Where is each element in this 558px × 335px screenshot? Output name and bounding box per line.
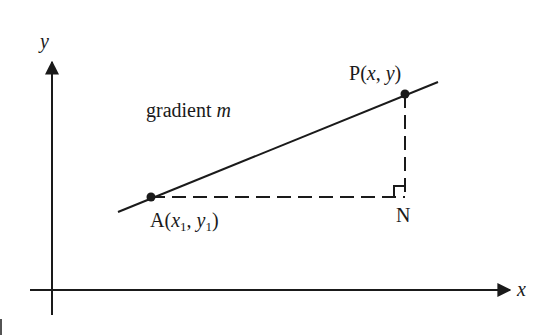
point-a-label: A(x1, y1) [150, 209, 219, 234]
point-p [401, 90, 410, 99]
point-a [147, 193, 156, 202]
x-axis-label: x [516, 278, 526, 300]
gradient-label: gradient m [146, 99, 231, 122]
point-p-label: P(x, y) [349, 62, 401, 85]
right-angle-marker [394, 186, 405, 197]
gradient-diagram: y x gradient m P(x, y) A(x1, y1) N [0, 0, 558, 335]
y-axis-label: y [38, 30, 49, 53]
point-n-label: N [396, 204, 410, 226]
